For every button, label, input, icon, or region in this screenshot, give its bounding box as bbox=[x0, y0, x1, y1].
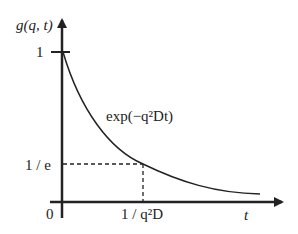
y-tick-inv-e-label: 1 / e bbox=[25, 157, 51, 173]
origin-label: 0 bbox=[46, 206, 54, 222]
x-axis-label: t bbox=[244, 207, 249, 223]
y-axis-label: g(q, t) bbox=[16, 17, 53, 34]
x-tick-tau-label: 1 / q²D bbox=[121, 206, 163, 222]
y-tick-one-label: 1 bbox=[36, 44, 44, 60]
decay-diagram: g(q, t) 1 1 / e 0 1 / q²D t exp(−q²Dt) bbox=[0, 0, 298, 234]
curve-label: exp(−q²Dt) bbox=[106, 108, 173, 125]
